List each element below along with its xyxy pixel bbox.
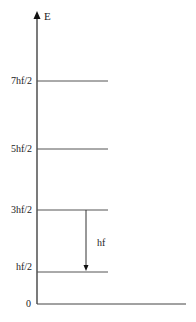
level-label-7hf2: 7hf/2 [11,76,32,86]
origin-label: 0 [26,299,31,309]
level-label-3hf2: 3hf/2 [11,205,32,215]
transition-label: hf [97,238,105,248]
transition-arrow-head-icon [84,265,89,271]
level-label-hf2: hf/2 [16,262,32,272]
level-label-5hf2: 5hf/2 [11,144,32,154]
energy-level-diagram: E 7hf/2 5hf/2 3hf/2 hf/2 hf 0 [0,0,196,322]
diagram-canvas [0,0,196,322]
energy-axis-arrow-icon [34,11,41,19]
energy-axis-label: E [44,11,51,22]
